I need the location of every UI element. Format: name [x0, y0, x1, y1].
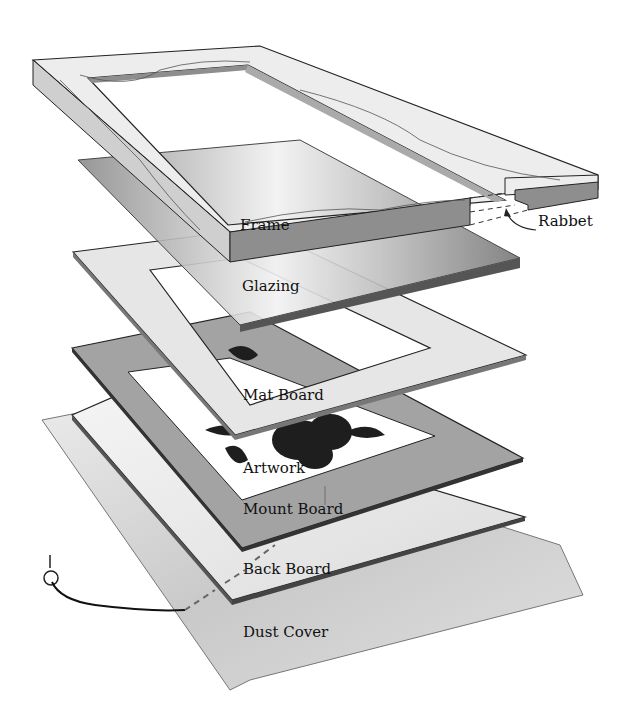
label-dust-cover: Dust Cover — [243, 625, 328, 640]
label-mat-board: Mat Board — [243, 388, 324, 403]
label-back-board: Back Board — [243, 562, 331, 577]
label-rabbet: Rabbet — [538, 214, 593, 229]
label-glazing: Glazing — [242, 279, 300, 294]
rabbet-callout-arrow — [508, 215, 536, 230]
label-frame: Frame — [240, 218, 290, 233]
frame-assembly-diagram: Frame Rabbet Glazing Mat Board Artwork M… — [0, 0, 638, 714]
label-artwork: Artwork — [243, 461, 305, 476]
diagram-canvas — [0, 0, 638, 714]
screw-eye-icon — [44, 571, 58, 585]
label-mount-board: Mount Board — [243, 502, 343, 517]
